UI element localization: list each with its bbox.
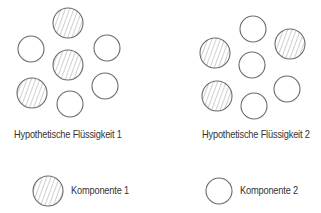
diagram-canvas [0, 0, 321, 213]
molecule-component-2 [92, 73, 118, 99]
molecule-component-1 [53, 50, 83, 80]
molecule-component-1 [200, 38, 230, 68]
liquid-2-molecules [200, 16, 305, 119]
legend-swatch-component-1 [33, 176, 63, 206]
liquid-2-label: Hypothetische Flüssigkeit 2 [202, 128, 310, 140]
molecule-component-1 [275, 29, 305, 59]
legend-label-component-2: Komponente 2 [240, 184, 298, 196]
legend-swatches [33, 176, 232, 206]
molecule-component-2 [274, 76, 300, 102]
molecule-component-2 [18, 36, 44, 62]
molecule-component-1 [202, 81, 232, 111]
molecule-component-2 [57, 91, 83, 117]
molecule-component-2 [94, 35, 120, 61]
legend-label-component-1: Komponente 1 [71, 184, 129, 196]
molecule-component-1 [17, 78, 47, 108]
molecule-component-1 [53, 8, 83, 38]
legend-swatch-component-2 [206, 178, 232, 204]
liquid-1-molecules [17, 8, 120, 117]
molecule-component-2 [241, 93, 267, 119]
molecule-component-2 [239, 52, 265, 78]
molecule-component-2 [240, 16, 266, 42]
liquid-1-label: Hypothetische Flüssigkeit 1 [14, 128, 122, 140]
